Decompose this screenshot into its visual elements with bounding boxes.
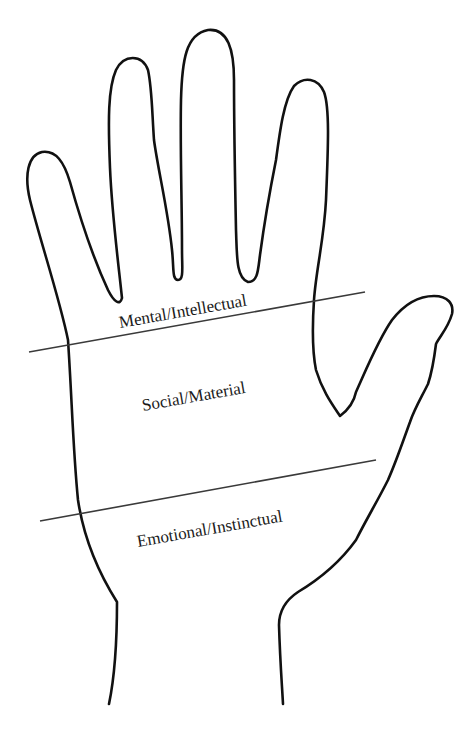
lower-divider-line [40,460,376,521]
zone-label-emotional-instinctual: Emotional/Instinctual [135,507,284,551]
hand-outline [27,30,452,704]
hand-zones-diagram: Mental/Intellectual Social/Material Emot… [0,0,470,733]
zone-label-social-material: Social/Material [140,378,247,415]
zone-label-mental-intellectual: Mental/Intellectual [117,291,248,332]
